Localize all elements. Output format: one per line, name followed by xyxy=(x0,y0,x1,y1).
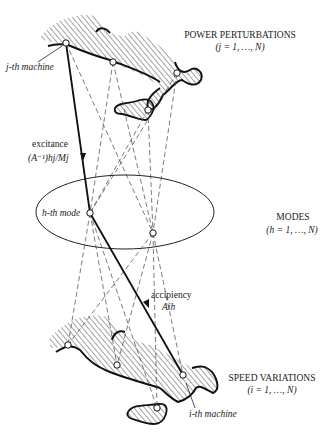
top-group-title: POWER PERTURBATIONS xyxy=(175,30,305,41)
bottom-group-title: SPEED VARIATIONS xyxy=(222,373,322,384)
j-machine-label: j-th machine xyxy=(6,62,54,73)
top-group-range: (j = 1, …, N) xyxy=(175,42,305,53)
i-machine-node xyxy=(180,372,186,378)
excitance-label: excitance xyxy=(32,139,68,150)
accipiency-label: accipiency xyxy=(151,290,192,301)
j-machine-node xyxy=(63,40,69,46)
modes-range: (h = 1, …, N) xyxy=(256,225,328,236)
excitance-formula: (A⁻¹)hj/Mj xyxy=(28,153,69,164)
bottom-region-shape xyxy=(50,315,217,402)
h-mode-node xyxy=(87,210,93,216)
modes-title: MODES xyxy=(258,212,328,223)
bottom-group-range: (i = 1, …, N) xyxy=(222,385,322,396)
h-mode-label: h-th mode xyxy=(42,208,80,219)
j-machine-pointer xyxy=(38,46,62,62)
accipiency-formula: Aih xyxy=(162,302,175,313)
bottom-island-shape xyxy=(127,404,166,424)
i-machine-label: i-th machine xyxy=(189,409,237,420)
